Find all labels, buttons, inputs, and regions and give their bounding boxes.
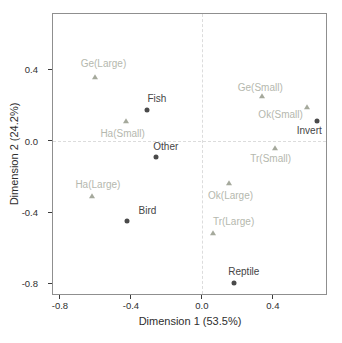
data-point-triangle	[123, 118, 129, 123]
point-label: Bird	[138, 204, 156, 215]
point-label: Ok(Small)	[258, 108, 302, 119]
zero-line-horizontal	[53, 141, 326, 142]
data-point-triangle	[272, 145, 278, 150]
data-point-triangle	[92, 75, 98, 80]
point-label: Reptile	[228, 266, 259, 277]
data-point-triangle	[304, 104, 310, 109]
point-label: Ok(Large)	[208, 190, 253, 201]
point-label: Ha(Large)	[75, 178, 120, 189]
point-label: Ge(Large)	[81, 58, 127, 69]
data-point-triangle	[226, 181, 232, 186]
y-tick	[48, 140, 52, 141]
data-point-circle	[144, 108, 149, 113]
data-point-circle	[125, 218, 130, 223]
point-label: Fish	[147, 93, 166, 104]
chart: Dimension 1 (53.5%) Dimension 2 (24.2%) …	[0, 0, 342, 343]
data-point-triangle	[89, 193, 95, 198]
x-tick-label: 0.4	[266, 300, 279, 311]
y-tick-label: 0.4	[0, 64, 46, 75]
zero-line-vertical	[202, 14, 203, 294]
data-point-circle	[315, 118, 320, 123]
y-tick	[48, 69, 52, 70]
data-point-triangle	[210, 231, 216, 236]
data-point-circle	[231, 281, 236, 286]
y-tick	[48, 212, 52, 213]
x-tick	[59, 295, 60, 299]
x-tick	[201, 295, 202, 299]
x-tick-label: -0.8	[52, 300, 68, 311]
y-axis-title: Dimension 2 (24.2%)	[8, 103, 20, 206]
y-tick-label: -0.4	[0, 207, 46, 218]
point-label: Tr(Small)	[250, 152, 291, 163]
x-tick	[130, 295, 131, 299]
x-axis-title: Dimension 1 (53.5%)	[139, 315, 242, 327]
point-label: Ge(Small)	[238, 81, 283, 92]
x-tick-label: 0.0	[195, 300, 208, 311]
point-label: Ha(Small)	[100, 127, 144, 138]
y-tick	[48, 283, 52, 284]
point-label: Invert	[297, 124, 322, 135]
data-point-triangle	[259, 93, 265, 98]
y-tick-label: -0.8	[0, 278, 46, 289]
x-tick	[272, 295, 273, 299]
point-label: Other	[153, 140, 178, 151]
point-label: Tr(Large)	[213, 216, 254, 227]
data-point-circle	[153, 154, 158, 159]
x-tick-label: -0.4	[123, 300, 139, 311]
y-tick-label: 0.0	[0, 135, 46, 146]
